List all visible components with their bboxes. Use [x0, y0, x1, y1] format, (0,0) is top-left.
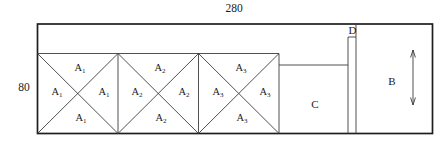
geometry-figure: 280 80 A1 A1 A1 A1 A2 A2 A2 A2 A3 A3 A3 … — [0, 0, 445, 143]
label-base: A — [74, 62, 82, 73]
label-sub: 1 — [82, 67, 86, 75]
label-base: A — [259, 86, 267, 97]
label-base: A — [75, 112, 83, 123]
region-b-label: B — [388, 76, 395, 87]
label-sub: 3 — [220, 91, 224, 99]
region-d-label: D — [349, 25, 357, 36]
label-base: A — [131, 86, 139, 97]
diagram-lines — [0, 0, 445, 143]
square-1-left-label: A1 — [51, 87, 62, 99]
label-sub: 3 — [244, 117, 248, 125]
label-sub: 2 — [163, 117, 167, 125]
square-3-right-label: A3 — [259, 87, 270, 99]
square-2-left-label: A2 — [131, 87, 142, 99]
label-base: A — [235, 62, 243, 73]
label-base: A — [155, 112, 163, 123]
label-base: A — [51, 86, 59, 97]
vertical-double-arrow-icon — [411, 50, 416, 105]
label-sub: 1 — [59, 91, 63, 99]
label-sub: 2 — [186, 91, 190, 99]
label-base: A — [236, 112, 244, 123]
label-sub: 1 — [106, 91, 110, 99]
square-1-right-label: A1 — [98, 87, 109, 99]
square-3-top-label: A3 — [235, 63, 246, 75]
label-base: A — [178, 86, 186, 97]
square-1-bottom-label: A1 — [75, 113, 86, 125]
label-base: A — [98, 86, 106, 97]
label-sub: 3 — [267, 91, 271, 99]
label-sub: 1 — [83, 117, 87, 125]
label-base: A — [212, 86, 220, 97]
square-2-bottom-label: A2 — [155, 113, 166, 125]
region-c-label: C — [311, 99, 318, 110]
square-2-top-label: A2 — [154, 63, 165, 75]
width-dimension-label: 280 — [225, 3, 242, 15]
height-dimension-label: 80 — [18, 82, 30, 94]
label-sub: 2 — [139, 91, 143, 99]
square-3-bottom-label: A3 — [236, 113, 247, 125]
square-1-top-label: A1 — [74, 63, 85, 75]
label-sub: 3 — [243, 67, 247, 75]
outer-rectangle-border — [38, 24, 433, 134]
square-2-right-label: A2 — [178, 87, 189, 99]
label-sub: 2 — [162, 67, 166, 75]
square-3-left-label: A3 — [212, 87, 223, 99]
label-base: A — [154, 62, 162, 73]
